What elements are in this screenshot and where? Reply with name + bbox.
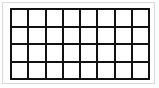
- grid-cell[interactable]: [47, 28, 62, 44]
- grid-cell[interactable]: [98, 45, 113, 61]
- grid-cell[interactable]: [12, 10, 27, 26]
- grid-cell[interactable]: [133, 63, 148, 79]
- diagram-canvas: [0, 0, 159, 88]
- grid-cell[interactable]: [64, 63, 79, 79]
- grid-cell[interactable]: [133, 45, 148, 61]
- grid-cell[interactable]: [29, 10, 44, 26]
- grid-cell[interactable]: [47, 63, 62, 79]
- grid-cell[interactable]: [116, 10, 131, 26]
- grid-cell[interactable]: [47, 10, 62, 26]
- grid-cell[interactable]: [12, 28, 27, 44]
- grid-cell[interactable]: [29, 28, 44, 44]
- grid-cell[interactable]: [64, 28, 79, 44]
- grid-cell[interactable]: [12, 63, 27, 79]
- grid-cell[interactable]: [116, 45, 131, 61]
- grid-cell[interactable]: [116, 28, 131, 44]
- grid-cell[interactable]: [133, 28, 148, 44]
- grid-cell[interactable]: [64, 10, 79, 26]
- grid-cell[interactable]: [64, 45, 79, 61]
- grid-cell[interactable]: [116, 63, 131, 79]
- grid-cell[interactable]: [81, 63, 96, 79]
- grid-cell[interactable]: [47, 45, 62, 61]
- grid-cell[interactable]: [98, 63, 113, 79]
- grid-cell[interactable]: [81, 10, 96, 26]
- grid-cell[interactable]: [29, 63, 44, 79]
- grid-cell[interactable]: [81, 28, 96, 44]
- grid-cell[interactable]: [98, 28, 113, 44]
- grid-table: [10, 8, 150, 80]
- grid-cell[interactable]: [12, 45, 27, 61]
- grid-cell[interactable]: [133, 10, 148, 26]
- grid-cell[interactable]: [81, 45, 96, 61]
- grid-cell[interactable]: [29, 45, 44, 61]
- grid-cell[interactable]: [98, 10, 113, 26]
